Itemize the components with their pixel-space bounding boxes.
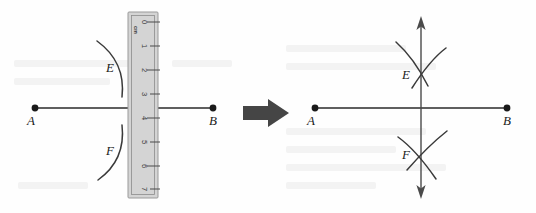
ruler: cm 0 1 2 3 4 5 6 7 xyxy=(128,12,160,198)
point-a-dot-right xyxy=(312,105,319,112)
ruler-tick-4: 4 xyxy=(140,116,149,120)
label-a-left: A xyxy=(26,113,35,128)
label-e-left: E xyxy=(105,60,114,75)
label-e-right: E xyxy=(401,67,410,82)
ruler-tick-3: 3 xyxy=(140,92,149,96)
ruler-body xyxy=(128,12,158,198)
background-artifacts xyxy=(14,45,446,189)
ruler-unit-label: cm xyxy=(133,26,139,34)
point-b-dot-left xyxy=(210,105,217,112)
ruler-tick-2: 2 xyxy=(140,68,149,72)
implies-arrow xyxy=(243,99,289,127)
point-a-dot-left xyxy=(32,105,39,112)
diagram-canvas: cm 0 1 2 3 4 5 6 7 A B E F xyxy=(0,0,536,213)
label-b-right: B xyxy=(503,113,511,128)
left-panel: cm 0 1 2 3 4 5 6 7 A B E F xyxy=(26,12,217,198)
ruler-tick-5: 5 xyxy=(140,140,149,144)
ruler-tick-7: 7 xyxy=(140,187,149,191)
ruler-tick-1: 1 xyxy=(140,44,149,48)
right-panel: A B E F xyxy=(306,16,511,199)
ruler-tick-0: 0 xyxy=(140,20,149,24)
label-a-right: A xyxy=(306,113,315,128)
perpendicular-bisector-figure: cm 0 1 2 3 4 5 6 7 A B E F xyxy=(0,0,536,213)
label-b-left: B xyxy=(209,113,217,128)
label-f-right: F xyxy=(401,147,411,162)
ruler-tick-6: 6 xyxy=(140,164,149,168)
label-f-left: F xyxy=(105,143,115,158)
point-b-dot-right xyxy=(504,105,511,112)
